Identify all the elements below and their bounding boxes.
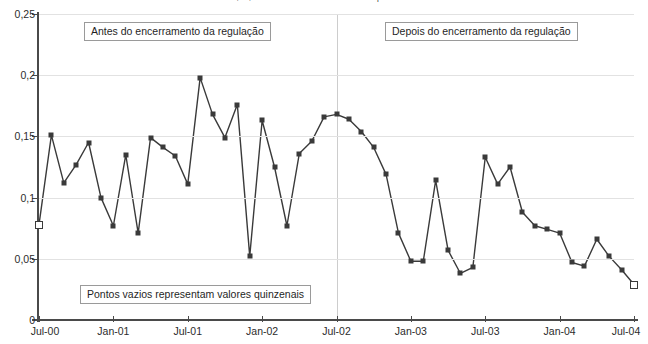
x-axis-tick-label: Jul-03: [471, 325, 500, 337]
data-point-marker: [371, 145, 376, 150]
x-axis-tick-label: Jul-01: [173, 325, 202, 337]
data-point-marker: [111, 223, 116, 228]
x-axis-tick-label: Jan-04: [544, 325, 576, 337]
y-axis: [37, 12, 39, 322]
data-point-marker: [160, 145, 165, 150]
data-point-marker: [470, 265, 475, 270]
data-point-marker: [532, 223, 537, 228]
x-axis-tick-label: Jan-01: [97, 325, 129, 337]
data-point-marker: [210, 112, 215, 117]
data-point-marker: [433, 178, 438, 183]
data-point-marker: [74, 162, 79, 167]
data-point-marker: [49, 133, 54, 138]
data-point-marker: [508, 165, 513, 170]
data-point-marker: [297, 151, 302, 156]
data-point-marker: [582, 264, 587, 269]
gridline: [39, 136, 634, 137]
x-axis-tick-mark: [560, 316, 561, 322]
data-point-marker: [520, 210, 525, 215]
data-point-marker: [136, 231, 141, 236]
data-point-marker: [619, 267, 624, 272]
data-point-marker: [346, 117, 351, 122]
annotation-after-regulation: Depois do encerramento da regulação: [385, 22, 578, 41]
data-point-marker: [322, 114, 327, 119]
x-axis-tick-label: Jul-04: [612, 325, 641, 337]
gridline: [39, 75, 634, 76]
data-point-marker: [408, 259, 413, 264]
x-axis-tick-mark: [337, 316, 338, 322]
x-axis-tick-label: Jul-00: [31, 325, 60, 337]
data-point-marker: [570, 260, 575, 265]
x-axis-tick-mark: [411, 316, 412, 322]
data-point-marker: [396, 231, 401, 236]
data-point-marker-hollow: [630, 281, 638, 289]
data-point-marker: [98, 195, 103, 200]
data-point-marker: [148, 135, 153, 140]
data-point-marker: [545, 227, 550, 232]
x-axis: [32, 319, 638, 321]
data-point-marker: [61, 180, 66, 185]
data-point-marker: [222, 135, 227, 140]
data-point-marker: [86, 140, 91, 145]
data-point-marker: [334, 112, 339, 117]
y-axis-tick-label: 0,25: [0, 8, 35, 20]
regulation-divider-line: [337, 14, 338, 320]
data-point-marker: [260, 118, 265, 123]
y-axis-tick-label: 0,2: [0, 69, 35, 81]
y-axis-tick-label: 0,15: [0, 130, 35, 142]
data-point-marker: [272, 165, 277, 170]
data-point-marker: [446, 248, 451, 253]
x-axis-tick-mark: [113, 316, 114, 322]
annotation-hollow-point-note: Pontos vazios representam valores quinze…: [80, 285, 311, 304]
y-axis-tick-label: 0,1: [0, 192, 35, 204]
x-axis-tick-label: Jan-02: [246, 325, 278, 337]
gridline: [39, 14, 634, 15]
x-axis-tick-label: Jan-03: [395, 325, 427, 337]
x-axis-tick-mark: [188, 316, 189, 322]
data-point-marker: [607, 254, 612, 259]
data-point-marker: [421, 259, 426, 264]
data-point-marker: [483, 155, 488, 160]
data-point-marker: [384, 172, 389, 177]
gridline: [39, 198, 634, 199]
y-axis-tick-label: 0,05: [0, 253, 35, 265]
data-point-marker: [458, 271, 463, 276]
data-point-marker: [495, 182, 500, 187]
chart-container: Diabetes, cv, Brasil: desvios-condiciona…: [0, 0, 648, 344]
data-point-marker: [359, 129, 364, 134]
data-point-marker: [594, 237, 599, 242]
data-point-marker: [185, 182, 190, 187]
data-point-marker: [173, 153, 178, 158]
x-axis-tick-label: Jul-02: [322, 325, 351, 337]
data-point-marker: [284, 223, 289, 228]
x-axis-tick-mark: [39, 316, 40, 322]
gridline: [39, 259, 634, 260]
data-point-marker: [247, 254, 252, 259]
annotation-before-regulation: Antes do encerramento da regulação: [84, 22, 271, 41]
data-point-marker: [123, 152, 128, 157]
data-point-marker: [309, 139, 314, 144]
x-axis-tick-mark: [634, 316, 635, 322]
data-point-marker: [235, 102, 240, 107]
x-axis-tick-mark: [485, 316, 486, 322]
data-point-marker: [198, 75, 203, 80]
x-axis-tick-mark: [262, 316, 263, 322]
data-point-marker: [557, 231, 562, 236]
data-point-marker-hollow: [35, 221, 43, 229]
